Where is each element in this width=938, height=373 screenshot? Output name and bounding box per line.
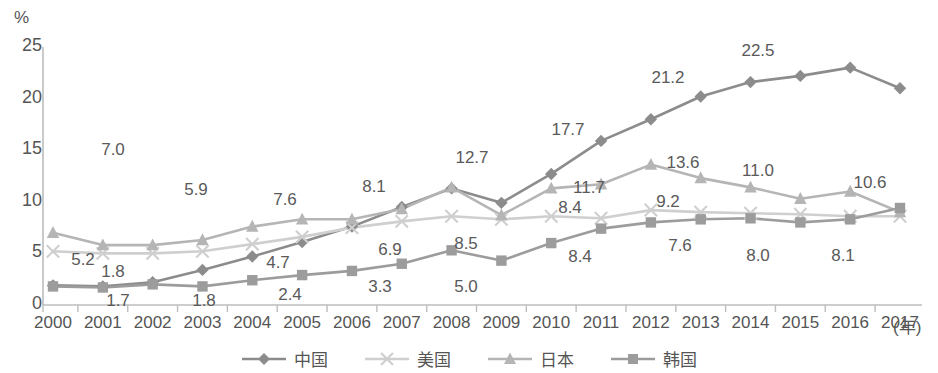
data-label-韩国-2013: 7.6	[656, 236, 704, 256]
data-point-marker	[48, 281, 58, 291]
x-axis-tick-2007: 2007	[378, 313, 426, 333]
y-axis-tick-15: 15	[8, 138, 42, 159]
y-axis-tick-10: 10	[8, 190, 42, 211]
data-label-韩国-2017: 10.6	[846, 173, 894, 193]
data-label-中国-2013: 21.2	[644, 68, 692, 88]
legend-marker-cross-icon	[364, 351, 410, 367]
x-axis-tick-2003: 2003	[178, 313, 226, 333]
y-axis-tick-5: 5	[8, 241, 42, 262]
data-label-中国-2005: 4.7	[254, 253, 302, 273]
y-axis-tick-0: 0	[8, 293, 42, 314]
data-label-韩国-2009: 5.0	[442, 277, 490, 297]
data-point-marker	[695, 90, 707, 102]
legend-item-中国[interactable]: 中国	[241, 346, 328, 371]
legend-marker-square-icon	[610, 351, 656, 367]
data-point-marker	[347, 266, 357, 276]
data-label-中国-2001: 1.8	[89, 262, 137, 282]
data-label-中国-2007: 8.1	[350, 177, 398, 197]
data-label-日本-2012: 13.6	[659, 153, 707, 173]
legend-marker-triangle-icon	[487, 351, 533, 367]
line-chart: % 2520151050 200020012002200320042005200…	[0, 0, 938, 373]
data-label-韩国-2007: 6.9	[366, 240, 414, 260]
data-point-marker	[844, 61, 856, 73]
legend-item-韩国[interactable]: 韩国	[610, 346, 697, 371]
x-axis-tick-2000: 2000	[29, 313, 77, 333]
data-point-marker	[596, 223, 606, 233]
data-point-marker	[646, 217, 656, 227]
x-axis-tick-2004: 2004	[228, 313, 276, 333]
x-axis-tick-2009: 2009	[477, 313, 525, 333]
x-axis-tick-2014: 2014	[727, 313, 775, 333]
x-axis-tick-2002: 2002	[129, 313, 177, 333]
data-label-日本-2001: 7.0	[89, 140, 137, 160]
data-point-marker	[397, 259, 407, 269]
data-label-韩国-2003: 1.8	[180, 291, 228, 311]
x-axis-tick-2012: 2012	[627, 313, 675, 333]
data-point-marker	[895, 203, 905, 213]
data-label-韩国-2015: 8.0	[734, 246, 782, 266]
x-axis-tick-2006: 2006	[328, 313, 376, 333]
x-axis-tick-2015: 2015	[776, 313, 824, 333]
data-point-marker	[794, 70, 806, 82]
data-label-日本-2015: 11.0	[734, 161, 782, 181]
data-label-韩国-2007: 3.3	[356, 277, 404, 297]
data-label-美国-2011: 8.4	[546, 198, 594, 218]
x-axis-tick-2008: 2008	[428, 313, 476, 333]
data-point-marker	[196, 264, 208, 276]
data-label-日本-2011: 11.7	[565, 178, 613, 198]
data-point-marker	[845, 214, 855, 224]
data-point-marker	[147, 279, 157, 289]
data-point-marker	[696, 214, 706, 224]
data-label-韩国-2016: 8.1	[819, 246, 867, 266]
data-point-marker	[894, 82, 906, 94]
data-label-日本-2005: 7.6	[261, 190, 309, 210]
legend-label: 韩国	[663, 346, 697, 371]
data-point-marker	[47, 226, 59, 238]
data-point-marker	[495, 197, 507, 209]
data-point-marker	[645, 113, 657, 125]
data-point-marker	[546, 238, 556, 248]
data-point-marker	[645, 158, 657, 170]
x-axis-tick-2016: 2016	[826, 313, 874, 333]
data-label-中国-2015: 22.5	[734, 41, 782, 61]
data-label-韩国-2005: 2.4	[266, 285, 314, 305]
data-point-marker	[247, 275, 257, 285]
y-axis-tick-20: 20	[8, 87, 42, 108]
legend-label: 日本	[540, 346, 574, 371]
data-point-marker	[745, 213, 755, 223]
x-axis-tick-2013: 2013	[677, 313, 725, 333]
data-point-marker	[744, 76, 756, 88]
legend-item-日本[interactable]: 日本	[487, 346, 574, 371]
data-point-marker	[795, 217, 805, 227]
data-label-美国-2012: 9.2	[644, 192, 692, 212]
x-axis-tick-2011: 2011	[577, 313, 625, 333]
x-axis-tick-2001: 2001	[79, 313, 127, 333]
legend-label: 中国	[294, 346, 328, 371]
data-label-日本-2009: 8.5	[442, 234, 490, 254]
legend-item-美国[interactable]: 美国	[364, 346, 451, 371]
data-label-中国-2010: 12.7	[448, 148, 496, 168]
data-label-韩国-2011: 8.4	[556, 247, 604, 267]
y-axis-tick-25: 25	[8, 35, 42, 56]
data-point-marker	[496, 255, 506, 265]
data-label-韩国-2001: 1.7	[94, 291, 142, 311]
legend-label: 美国	[417, 346, 451, 371]
data-label-中国-2011: 17.7	[544, 120, 592, 140]
x-axis-tick-2010: 2010	[527, 313, 575, 333]
x-axis-tick-2005: 2005	[278, 313, 326, 333]
legend-marker-diamond-icon	[241, 351, 287, 367]
data-label-日本-2003: 5.9	[172, 180, 220, 200]
x-axis-unit-label: (年)	[893, 313, 921, 338]
chart-legend: 中国美国日本韩国	[0, 346, 938, 371]
